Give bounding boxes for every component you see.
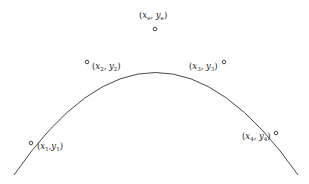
- point-label-2: (x2, y2): [92, 61, 121, 72]
- point-label-4: (x4, y4): [242, 131, 271, 142]
- point-label-1: (x1,y1): [37, 141, 63, 152]
- point-marker-3: [222, 60, 226, 64]
- point-marker-4: [274, 131, 278, 135]
- point-label-3: (x3, y3): [189, 61, 218, 72]
- parabola-diagram: (x1,y1) (x2, y2) (xe, ye) (x3, y3) (x4, …: [0, 0, 309, 184]
- parabola-curve: [14, 73, 298, 176]
- point-label-e: (xe, ye): [139, 10, 167, 21]
- point-marker-e: [153, 27, 157, 31]
- point-marker-2: [85, 60, 89, 64]
- point-marker-1: [29, 141, 33, 145]
